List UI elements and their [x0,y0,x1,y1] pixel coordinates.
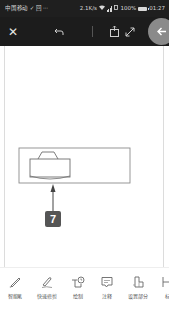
wifi-icon [99,0,105,17]
quick-trim-icon [40,275,54,289]
arrow-left-icon [157,27,167,36]
tool-draw[interactable]: 绘制 [64,268,92,313]
tool-label: 快速修剪 [37,292,57,299]
undo-button[interactable] [52,17,66,46]
callout-badge: 7 [45,211,61,227]
tool-label: 绘制 [73,292,83,299]
close-button[interactable]: ✕ [6,17,20,46]
smart-pen-icon [8,275,22,289]
tool-set-part[interactable]: 设置部分 [124,268,152,313]
back-button[interactable] [148,18,169,45]
tool-quick-trim[interactable]: 快速修剪 [33,268,61,313]
expand-button[interactable] [124,17,136,46]
dimension-icon [160,275,169,289]
part-body [30,159,70,177]
sim-icon [114,0,118,17]
draw-icon [71,275,85,289]
drawing-view[interactable] [0,46,169,267]
tool-label: 智能笔 [8,292,23,299]
signal-icon [107,6,113,12]
tool-annotation[interactable]: 注释 [93,268,121,313]
tool-dimension[interactable]: 标 [153,268,169,313]
close-icon: ✕ [8,25,18,39]
annotation-icon [100,275,114,289]
toolbar-divider [90,17,94,46]
status-bar: 中国移动 ✓ 回 ··· 2.1K/s 100% 01:27 [0,0,169,17]
clock: 01:27 [149,0,165,17]
export-button[interactable] [108,17,120,46]
top-toolbar: ✕ [0,17,169,46]
set-part-icon [131,275,145,289]
status-right: 2.1K/s 100% 01:27 [80,0,165,17]
arrowhead [51,184,56,192]
drawing-canvas[interactable]: 7 [0,46,169,267]
tool-label: 设置部分 [128,292,148,299]
expand-icon [125,27,135,37]
battery-percent: 100% [120,0,136,17]
part-top-trapezoid [38,152,58,159]
tool-label: 标 [165,292,169,299]
tool-label: 注释 [102,292,112,299]
export-icon [110,26,119,37]
tool-smart-pen[interactable]: 智能笔 [1,268,29,313]
battery-icon [138,7,147,11]
bottom-toolbar: 智能笔 快速修剪 绘制 注释 设置部分 标 [0,267,169,313]
undo-icon [54,28,64,36]
network-speed: 2.1K/s [80,0,97,17]
carrier-label: 中国移动 ✓ 回 ··· [5,0,48,17]
